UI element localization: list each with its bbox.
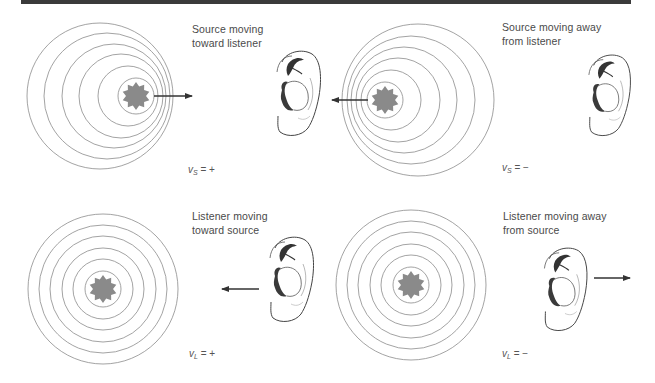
ear-icon bbox=[589, 55, 631, 136]
caption-line: toward listener bbox=[192, 36, 263, 50]
caption-line: from listener bbox=[502, 34, 601, 48]
caption-line: Source moving bbox=[192, 22, 263, 36]
doppler-diagram bbox=[0, 0, 655, 383]
caption-source-away: Source moving away from listener bbox=[502, 20, 601, 48]
caption-source-toward: Source moving toward listener bbox=[192, 22, 263, 50]
caption-line: toward source bbox=[192, 223, 268, 237]
equation-vl-minus: vL = − bbox=[502, 348, 528, 360]
caption-listener-away: Listener moving away from source bbox=[503, 209, 607, 237]
equation-sign: = + bbox=[198, 348, 215, 359]
sound-source-star-icon bbox=[90, 275, 117, 303]
wavefront-circles bbox=[27, 23, 173, 169]
sound-source-star-icon bbox=[398, 271, 425, 299]
caption-line: from source bbox=[503, 223, 607, 237]
caption-line: Source moving away bbox=[502, 20, 601, 34]
caption-line: Listener moving away bbox=[503, 209, 607, 223]
sound-source-star-icon bbox=[123, 82, 150, 110]
ear-icon bbox=[544, 248, 587, 330]
sound-source-star-icon bbox=[372, 86, 399, 114]
equation-vs-plus: vS = + bbox=[188, 164, 215, 176]
panel-listener-toward bbox=[28, 214, 314, 364]
equation-sign: = − bbox=[511, 348, 528, 359]
ear-icon bbox=[277, 51, 321, 135]
equation-vl-plus: vL = + bbox=[189, 348, 215, 360]
panel-source-toward bbox=[27, 23, 321, 169]
equation-sign: = − bbox=[512, 162, 529, 173]
ear-icon bbox=[270, 237, 314, 321]
equation-vs-minus: vS = − bbox=[502, 162, 529, 174]
caption-listener-toward: Listener moving toward source bbox=[192, 209, 268, 237]
caption-line: Listener moving bbox=[192, 209, 268, 223]
equation-sign: = + bbox=[198, 164, 215, 175]
